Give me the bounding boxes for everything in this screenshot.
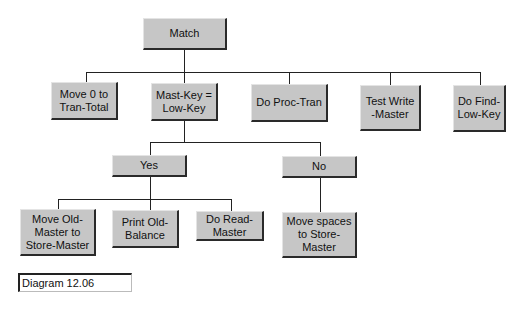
connector bbox=[184, 121, 185, 142]
node-print-old-balance: Print Old- Balance bbox=[112, 210, 179, 248]
connector bbox=[150, 142, 321, 143]
connector bbox=[184, 50, 185, 72]
connector bbox=[320, 178, 321, 212]
connector bbox=[320, 142, 321, 156]
node-do-proc-tran: Do Proc-Tran bbox=[251, 84, 328, 122]
node-move-spaces-to-store-master: Move spaces to Store- Master bbox=[282, 212, 357, 258]
node-test-write-master: Test Write -Master bbox=[360, 85, 421, 131]
diagram-caption: Diagram 12.06 bbox=[18, 273, 132, 292]
node-mast-key-equals-low-key: Mast-Key = Low-Key bbox=[151, 83, 218, 121]
connector bbox=[289, 72, 290, 84]
node-no: No bbox=[282, 156, 357, 178]
node-move-old-master-to-store-master: Move Old- Master to Store-Master bbox=[20, 209, 96, 256]
connector bbox=[390, 72, 391, 85]
connector bbox=[150, 177, 151, 210]
node-do-read-master: Do Read- Master bbox=[196, 211, 264, 241]
connector bbox=[480, 72, 481, 85]
connector bbox=[58, 199, 59, 209]
node-yes: Yes bbox=[112, 155, 187, 177]
connector bbox=[231, 199, 232, 211]
node-do-find-low-key: Do Find- Low-Key bbox=[453, 85, 506, 132]
connector bbox=[86, 72, 87, 82]
connector bbox=[58, 199, 232, 200]
connector bbox=[150, 142, 151, 155]
node-match: Match bbox=[143, 18, 227, 50]
connector bbox=[86, 72, 481, 73]
node-move-0-to-tran-total: Move 0 to Tran-Total bbox=[51, 82, 118, 120]
connector bbox=[184, 72, 185, 83]
